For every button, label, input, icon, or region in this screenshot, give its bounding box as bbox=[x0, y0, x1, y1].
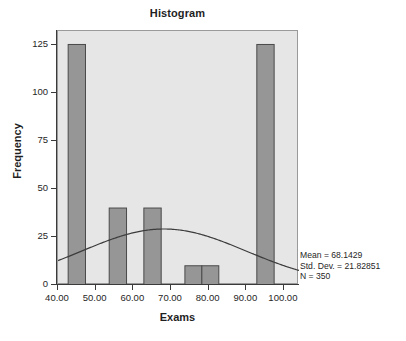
y-axis-tick-label: 0 bbox=[8, 279, 48, 289]
y-axis-tick-label: 125 bbox=[8, 39, 48, 49]
plot-canvas bbox=[58, 31, 299, 285]
stat-mean: Mean = 68.1429 bbox=[300, 250, 404, 261]
x-axis-line bbox=[56, 284, 299, 285]
y-axis-tick bbox=[51, 188, 56, 189]
plot-area bbox=[57, 30, 298, 284]
x-axis-tick bbox=[170, 285, 171, 290]
x-axis-tick bbox=[245, 285, 246, 290]
y-axis-tick bbox=[51, 236, 56, 237]
stat-std-dev: Std. Dev. = 21.82851 bbox=[300, 261, 404, 272]
y-axis-tick bbox=[51, 92, 56, 93]
y-axis-tick-label: 25 bbox=[8, 231, 48, 241]
histogram-bar bbox=[257, 44, 274, 285]
x-axis-tick bbox=[132, 285, 133, 290]
x-axis-tick-label: 100.00 bbox=[258, 292, 308, 303]
y-axis-title: Frequency bbox=[11, 106, 23, 196]
histogram-bar bbox=[202, 266, 219, 285]
histogram-bar bbox=[144, 208, 161, 285]
histogram-bar bbox=[109, 208, 126, 285]
x-axis-tick bbox=[208, 285, 209, 290]
y-axis-tick-label: 100 bbox=[8, 87, 48, 97]
bars-group bbox=[68, 44, 274, 285]
histogram-bar bbox=[185, 266, 202, 285]
stat-n: N = 350 bbox=[300, 271, 404, 282]
histogram-chart: Histogram 0255075100125 40.0050.0060.007… bbox=[0, 0, 406, 341]
chart-title: Histogram bbox=[57, 7, 298, 19]
y-axis-tick bbox=[51, 140, 56, 141]
histogram-bar bbox=[68, 44, 85, 285]
x-axis-tick bbox=[283, 285, 284, 290]
y-axis-line bbox=[56, 30, 57, 285]
x-axis-tick bbox=[95, 285, 96, 290]
x-axis-tick bbox=[57, 285, 58, 290]
y-axis-tick bbox=[51, 44, 56, 45]
statistics-annotation: Mean = 68.1429 Std. Dev. = 21.82851 N = … bbox=[300, 250, 404, 282]
y-axis-tick bbox=[51, 284, 56, 285]
x-axis-title: Exams bbox=[57, 311, 298, 323]
